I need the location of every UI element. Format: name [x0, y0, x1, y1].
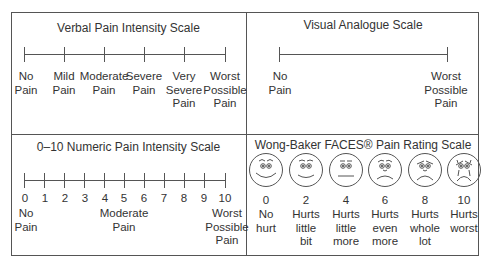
face-10-score: 10: [458, 194, 471, 208]
face-6-label: Hurts even more: [371, 208, 398, 249]
face-2-label: Hurts little bit: [292, 208, 319, 249]
face-10-label: Hurts worst: [450, 208, 477, 235]
face-4-label: Hurts little more: [332, 208, 359, 249]
crying-face-icon: [448, 154, 481, 187]
face-0-label: No hurt: [256, 208, 276, 235]
frown-face-icon: [369, 154, 402, 187]
face-6-score: 6: [382, 194, 388, 208]
smiling-face-icon: [250, 154, 283, 187]
face-2-score: 2: [303, 194, 309, 208]
face-8-score: 8: [422, 194, 428, 208]
neutral-face-icon: [330, 154, 363, 187]
face-4-score: 4: [343, 194, 349, 208]
slight-smile-face-icon: [290, 154, 323, 187]
sad-face-icon: [409, 154, 442, 187]
face-8-label: Hurts whole lot: [410, 208, 440, 249]
face-0-score: 0: [263, 194, 269, 208]
